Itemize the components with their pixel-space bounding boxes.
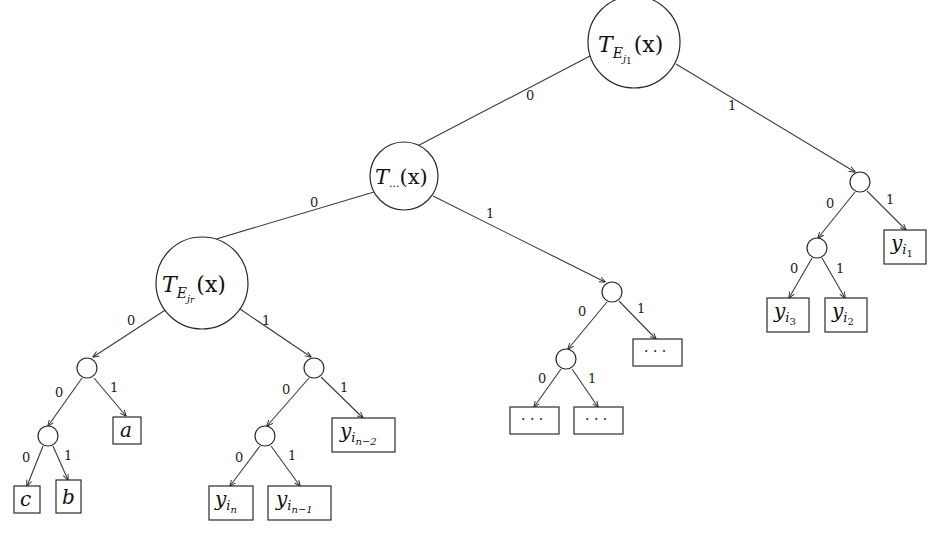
edge-label-d1-0: 0 [826, 196, 834, 211]
edge-label-d1-1: 1 [886, 192, 894, 207]
svg-text:· · ·: · · · [644, 343, 666, 359]
leaf-dots-3: · · · [633, 339, 682, 366]
edge-label-a1-0: 0 [55, 385, 63, 400]
internal-node-d2 [807, 238, 827, 258]
leaf-y-i3: yi3 [767, 298, 809, 332]
mid-node: T...(x) [370, 142, 438, 210]
edge-label-b2-0: 0 [235, 450, 243, 465]
edge-label-mid-0: 0 [310, 195, 318, 210]
leaf-a: a [113, 417, 141, 444]
edge-label-root-0: 0 [526, 88, 534, 103]
leaf-dots-2: · · · [574, 407, 623, 434]
edge-a1-a2 [48, 378, 82, 426]
svg-text:c: c [20, 487, 31, 511]
svg-text:T...(x): T...(x) [375, 165, 428, 190]
edge-d1-d2 [818, 192, 855, 238]
edge-label-low-1: 1 [262, 313, 270, 328]
edge-c1-c2 [568, 302, 607, 349]
leaf-c: c [14, 486, 40, 513]
low-node: TEjr(x) [156, 237, 248, 329]
svg-text:b: b [62, 485, 75, 509]
edge-label-a1-1: 1 [110, 380, 118, 395]
edge-label-d2-1: 1 [836, 261, 844, 276]
leaf-y-i1: yi1 [884, 230, 926, 264]
edge-label-b1-1: 1 [340, 380, 348, 395]
edge-label-a2-1: 1 [64, 448, 72, 463]
edge-label-c2-1: 1 [588, 371, 596, 386]
edge-label-a2-0: 0 [22, 450, 30, 465]
internal-node-c2 [556, 349, 576, 369]
internal-node-c1 [602, 282, 622, 302]
edge-root-mid [404, 56, 590, 153]
svg-text:· · ·: · · · [521, 411, 543, 427]
edge-label-c2-0: 0 [538, 371, 546, 386]
leaf-y-in: yin [209, 486, 253, 520]
edge-mid-low [203, 192, 374, 243]
root-node: TEj1(x) [588, 0, 680, 88]
edge-label-d2-0: 0 [790, 261, 798, 276]
svg-text:· · ·: · · · [585, 411, 607, 427]
edge-label-root-1: 1 [728, 98, 736, 113]
edge-low-right [237, 307, 311, 357]
leaf-b: b [56, 480, 81, 513]
edge-label-b2-1: 1 [288, 448, 296, 463]
leaf-y-i2: yi2 [825, 298, 867, 332]
leaf-y-in-minus-2: yin−2 [332, 418, 395, 452]
leaf-dots-1: · · · [510, 407, 559, 434]
decision-tree-diagram: 0 1 0 1 0 1 0 1 0 1 0 1 0 1 0 1 0 1 0 1 … [0, 0, 936, 535]
internal-node-a1 [77, 358, 97, 378]
internal-node-a2 [38, 426, 58, 446]
edge-root-right [676, 64, 855, 172]
edge-label-c1-1: 1 [637, 301, 645, 316]
internal-node-b2 [255, 426, 275, 446]
edge-label-b1-0: 0 [282, 382, 290, 397]
internal-node-d1 [850, 172, 870, 192]
edge-label-low-0: 0 [127, 313, 135, 328]
edge-label-mid-1: 1 [486, 206, 494, 221]
svg-text:a: a [120, 418, 132, 442]
edge-label-c1-0: 0 [578, 304, 586, 319]
leaf-y-in-minus-1: yin−1 [268, 486, 331, 520]
internal-node-b1 [304, 358, 324, 378]
edge-mid-right [433, 196, 605, 282]
